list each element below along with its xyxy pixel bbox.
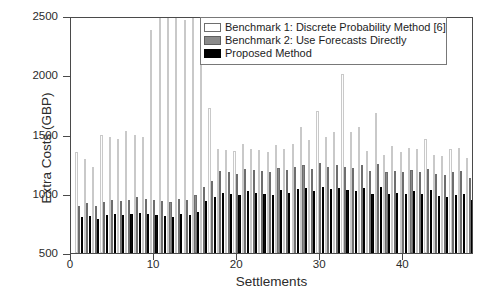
chart-figure: Extra Costs (GBP) 5001000150020002500 01… — [0, 0, 497, 295]
bar-b3 — [164, 216, 166, 253]
y-tick — [63, 76, 70, 77]
bar-b3 — [81, 217, 83, 253]
bar-b3 — [405, 194, 407, 253]
chart-legend: Benchmark 1: Discrete Probability Method… — [200, 17, 447, 65]
bar-b3 — [272, 195, 274, 253]
bar-b3 — [155, 215, 157, 253]
legend-label: Proposed Method — [225, 48, 312, 59]
x-axis-title: Settlements — [70, 274, 473, 289]
bar-b3 — [97, 219, 99, 253]
bar-b3 — [338, 188, 340, 253]
bar-b3 — [471, 200, 473, 253]
legend-label: Benchmark 1: Discrete Probability Method… — [225, 22, 446, 33]
bar-b3 — [122, 215, 124, 253]
legend-item: Benchmark 2: Use Forecasts Directly — [204, 35, 442, 48]
bar-b3 — [130, 214, 132, 253]
bar-b3 — [197, 212, 199, 253]
bar-b3 — [263, 194, 265, 253]
legend-item: Proposed Method — [204, 48, 442, 61]
bar-b3 — [446, 197, 448, 253]
y-tick — [63, 254, 70, 255]
bar-b3 — [222, 193, 224, 253]
bar-b3 — [438, 196, 440, 253]
bar-b3 — [430, 190, 432, 253]
legend-item: Benchmark 1: Discrete Probability Method… — [204, 22, 442, 35]
y-axis-title: Extra Costs (GBP) — [39, 58, 54, 238]
bar-b3 — [147, 214, 149, 253]
bar-b3 — [247, 191, 249, 253]
black-swatch-icon — [204, 49, 221, 58]
bar-b3 — [421, 194, 423, 253]
bar-b3 — [288, 193, 290, 253]
y-tick-label: 2000 — [0, 70, 58, 82]
bar-b3 — [172, 217, 174, 253]
x-tick-label: 20 — [216, 259, 256, 271]
white-swatch-icon — [204, 23, 221, 32]
bar-b3 — [388, 194, 390, 253]
bar-b3 — [355, 191, 357, 253]
bar-b3 — [106, 215, 108, 253]
bar-b3 — [189, 215, 191, 253]
bar-b3 — [297, 189, 299, 253]
x-tick-label: 0 — [50, 259, 90, 271]
x-tick-label: 10 — [133, 259, 173, 271]
bar-b3 — [305, 188, 307, 253]
bar-b3 — [139, 213, 141, 253]
y-tick — [63, 136, 70, 137]
bar-b3 — [238, 195, 240, 253]
legend-label: Benchmark 2: Use Forecasts Directly — [225, 35, 407, 46]
bar-b3 — [180, 214, 182, 253]
bar-b3 — [363, 188, 365, 253]
gray-swatch-icon — [204, 36, 221, 45]
bar-b3 — [313, 191, 315, 253]
bar-b3 — [230, 194, 232, 253]
bar-b3 — [280, 190, 282, 253]
bar-b3 — [322, 187, 324, 253]
bar-b3 — [413, 191, 415, 253]
y-tick-label: 500 — [0, 248, 58, 260]
bar-b3 — [205, 201, 207, 253]
bar-b3 — [330, 189, 332, 253]
bar-b3 — [396, 193, 398, 253]
y-tick — [63, 195, 70, 196]
bar-b3 — [255, 193, 257, 253]
bar-b3 — [346, 190, 348, 253]
y-tick — [63, 17, 70, 18]
bar-b3 — [455, 195, 457, 253]
y-tick-label: 1000 — [0, 189, 58, 201]
bar-b3 — [371, 194, 373, 253]
bar-b3 — [214, 197, 216, 253]
bar-b3 — [463, 194, 465, 253]
bar-b3 — [380, 187, 382, 253]
x-tick-label: 40 — [382, 259, 422, 271]
y-tick-label: 1500 — [0, 130, 58, 142]
bar-b3 — [114, 214, 116, 253]
y-tick-label: 2500 — [0, 11, 58, 23]
x-tick-label: 30 — [299, 259, 339, 271]
bar-b3 — [89, 216, 91, 253]
